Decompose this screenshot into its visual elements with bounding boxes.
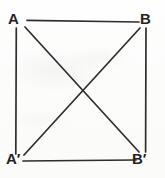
square-diagonals [24,27,140,155]
vertex-label-a-prime: A′ [6,151,20,166]
vertex-label-b-prime: B′ [132,151,146,166]
square-sides [16,20,146,161]
edge-diagonal-b-aprime [24,28,140,155]
figure-container: A B A′ B′ [0,0,165,178]
vertex-label-a: A [8,11,19,26]
edge-diagonal-a-bprime [25,27,139,152]
vertex-label-b: B [140,11,151,26]
edge-bottom-side [23,160,136,161]
edge-top-side [27,20,139,22]
